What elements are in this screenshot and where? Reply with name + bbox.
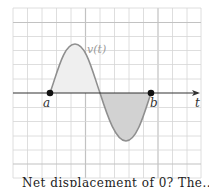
curve-label: v(t) bbox=[87, 43, 106, 56]
point-b-label: b bbox=[150, 96, 158, 110]
point-a-label: a bbox=[43, 96, 50, 110]
caption-fragment: Net displacement of 0? The... bbox=[22, 176, 209, 187]
velocity-graph: v(t) t a b bbox=[0, 0, 209, 187]
axis-label-t: t bbox=[195, 96, 200, 110]
